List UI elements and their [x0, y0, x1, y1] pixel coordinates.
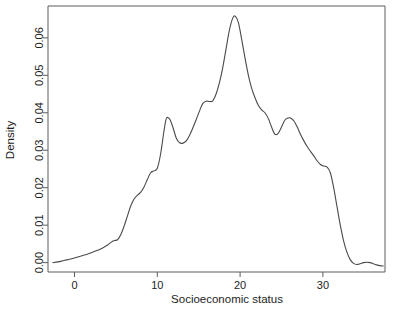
plot-svg: 0102030 0.000.010.020.030.040.050.06 Soc… — [0, 0, 394, 318]
y-tick-label: 0.01 — [33, 214, 45, 235]
x-tick-label: 0 — [71, 279, 77, 291]
x-tick-label: 10 — [151, 279, 163, 291]
x-tick-label: 30 — [317, 279, 329, 291]
y-tick-label: 0.04 — [33, 102, 45, 123]
y-tick-label: 0.02 — [33, 177, 45, 198]
y-axis-title: Density — [4, 121, 16, 160]
y-tick-label: 0.00 — [33, 252, 45, 273]
x-axis-title: Socioeconomic status — [171, 293, 283, 305]
y-tick-label: 0.03 — [33, 140, 45, 161]
y-tick-label: 0.05 — [33, 65, 45, 86]
x-tick-label: 20 — [234, 279, 246, 291]
density-plot-figure: 0102030 0.000.010.020.030.040.050.06 Soc… — [0, 0, 394, 318]
y-tick-label: 0.06 — [33, 27, 45, 48]
figure-background — [0, 0, 394, 318]
